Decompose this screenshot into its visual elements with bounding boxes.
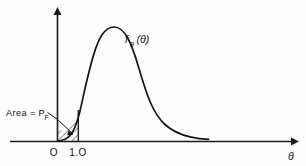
- function-argument-label: (θ): [137, 33, 150, 45]
- pf-symbol-subscript: F: [45, 114, 49, 121]
- x-axis: [10, 138, 299, 146]
- x-tick-label-origin: O: [50, 147, 58, 158]
- y-axis: [54, 7, 62, 142]
- density-plot-svg: Area = P F f θ (θ) O 1.O θ: [0, 0, 306, 166]
- area-pf-annotation: Area = P F: [6, 108, 49, 121]
- y-axis-arrow-icon: [54, 7, 62, 15]
- leader-segment-left: [48, 113, 58, 120]
- function-subscript-label: θ: [130, 40, 134, 49]
- x-axis-arrow-icon: [291, 138, 299, 146]
- figure-canvas: Area = P F f θ (θ) O 1.O θ: [0, 0, 306, 166]
- area-equals-label: Area =: [6, 108, 36, 118]
- x-axis-variable-label: θ: [288, 150, 294, 162]
- x-tick-label-one: 1.O: [69, 147, 87, 158]
- x-tick-labels: O 1.O: [50, 147, 87, 158]
